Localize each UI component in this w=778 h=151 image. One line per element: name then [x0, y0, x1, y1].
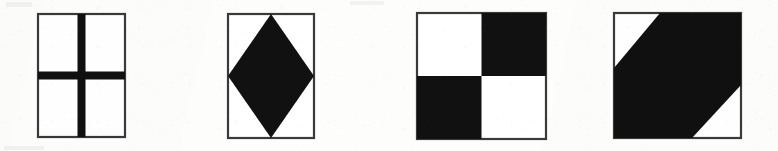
figure-cross-square	[36, 12, 127, 139]
checker-quadrant-bottom-left	[417, 76, 482, 139]
figure-strip	[0, 0, 778, 151]
figure-diagonal-band-square	[612, 11, 743, 140]
scan-artifact-top-mid	[350, 1, 384, 5]
figure-diamond-square	[226, 12, 316, 140]
diamond-square-svg	[226, 12, 316, 140]
scan-artifact-bottom-left	[4, 146, 44, 150]
diagonal-band-square-svg	[612, 11, 743, 140]
checkerboard-square-svg	[415, 11, 548, 141]
figure-checkerboard-square	[415, 11, 548, 141]
cross-horizontal-bar	[38, 72, 125, 80]
scan-artifact-top-left	[6, 2, 32, 7]
cross-square-svg	[36, 12, 127, 139]
checker-quadrant-top-right	[482, 13, 547, 76]
